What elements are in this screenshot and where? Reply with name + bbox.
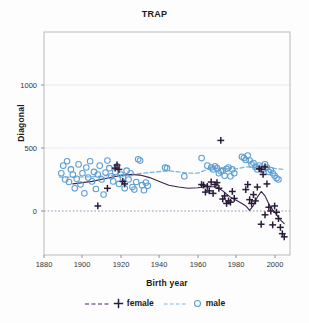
circle-marker-icon [192, 298, 203, 309]
figure-canvas: TRAP Diagonal Birth year 1000 500 0 1880… [0, 0, 309, 323]
gridlines [44, 85, 290, 148]
legend-item-male[interactable]: male [163, 298, 225, 309]
data-points-male [59, 153, 282, 198]
plus-marker-icon [113, 298, 124, 309]
dashed-line-icon [163, 299, 189, 309]
legend-item-female[interactable]: female [84, 298, 154, 309]
trend-line-male [59, 167, 284, 177]
plot-frame [44, 32, 290, 255]
legend-label-female: female [127, 299, 154, 308]
legend: female male [0, 298, 309, 309]
plot-area [0, 0, 309, 323]
dashed-line-icon [84, 299, 110, 309]
legend-label-male: male [206, 299, 225, 308]
